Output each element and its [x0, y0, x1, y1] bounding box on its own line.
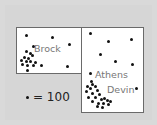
population-dot	[107, 103, 110, 106]
population-dot	[96, 105, 99, 108]
dot-icon	[26, 96, 29, 99]
population-dot	[96, 89, 99, 92]
population-dot	[89, 72, 92, 75]
population-dot	[25, 34, 28, 37]
population-dot	[114, 60, 117, 63]
population-dot	[103, 97, 106, 100]
population-dot	[26, 64, 29, 67]
population-dot	[89, 32, 92, 35]
population-dot	[26, 69, 29, 72]
population-dot	[89, 87, 92, 90]
population-dot	[131, 63, 134, 66]
population-dot	[94, 96, 97, 99]
population-dot	[91, 83, 94, 86]
population-dot	[99, 53, 102, 56]
label-devin: Devin	[107, 85, 134, 95]
population-dot	[51, 36, 54, 39]
population-dot	[94, 85, 97, 88]
population-dot	[101, 106, 104, 109]
population-dot	[68, 43, 71, 46]
population-dot	[27, 57, 30, 60]
population-dot	[66, 65, 69, 68]
population-dot	[21, 63, 24, 66]
population-dot	[40, 64, 43, 67]
population-dot	[91, 100, 94, 103]
population-dot	[107, 40, 110, 43]
population-dot	[135, 87, 138, 90]
label-brock: Brock	[34, 44, 61, 54]
population-dot	[109, 100, 112, 103]
population-dot	[25, 50, 28, 53]
label-athens: Athens	[95, 70, 128, 80]
population-dot	[20, 59, 23, 62]
population-dot	[91, 92, 94, 95]
population-dot	[87, 96, 90, 99]
dot-layer	[0, 0, 157, 125]
population-dot	[102, 102, 105, 105]
population-dot	[98, 93, 101, 96]
population-dot	[34, 61, 37, 64]
population-dot	[85, 90, 88, 93]
population-dot	[23, 56, 26, 59]
population-dot	[86, 85, 89, 88]
population-dot	[130, 38, 133, 41]
legend: = 100	[26, 90, 70, 104]
population-dot	[32, 64, 35, 67]
legend-value: = 100	[33, 90, 70, 104]
population-dot	[29, 60, 32, 63]
population-dot	[25, 60, 28, 63]
